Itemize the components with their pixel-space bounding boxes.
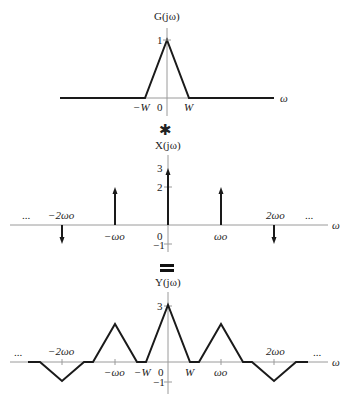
convolution-diagram: G(jω) 1 ω −W 0 W ✱ X(jω) 3 2 0 −1 −2ωo −… (0, 0, 352, 401)
x-title: X(jω) (155, 139, 181, 152)
g-title: G(jω) (154, 10, 180, 23)
x-ylabel-2: 2 (157, 181, 163, 193)
y-ellipsis-left: ... (14, 346, 23, 358)
g-ylabel-1: 1 (157, 34, 163, 46)
panel-x: X(jω) 3 2 0 −1 −2ωo −ωo ωo 2ωo ... ... ω (10, 139, 340, 252)
y-ylabel-minus-1: −1 (153, 376, 165, 388)
g-xlabel-zero: 0 (157, 101, 163, 113)
panel-y: Y(jω) 3 0 −1 −2ωo −ωo −W W ωo 2ωo ... ..… (10, 276, 340, 394)
x-xlabel-minus-wo: −ωo (104, 230, 125, 242)
x-impulse-arrowhead-4 (272, 237, 277, 244)
x-ylabel-minus-1: −1 (153, 239, 165, 251)
x-ylabel-3: 3 (157, 162, 163, 174)
y-ellipsis-right: ... (313, 346, 322, 358)
x-ellipsis-right: ... (305, 209, 314, 221)
x-ellipsis-left: ... (22, 209, 31, 221)
y-xlabel-minus-wo: −ωo (104, 366, 125, 378)
g-xlabel-minus-w: −W (133, 101, 150, 113)
y-xlabel-wo: ωo (214, 366, 228, 378)
y-xlabel-minus-2wo: −2ωo (48, 345, 75, 357)
x-impulse-arrowhead-2 (166, 168, 171, 175)
y-title: Y(jω) (155, 276, 181, 289)
x-impulse-arrowhead-3 (219, 187, 224, 194)
x-xlabel-wo: ωo (214, 230, 228, 242)
convolve-operator: ✱ (159, 121, 172, 139)
equals-operator (160, 264, 174, 272)
y-ylabel-3: 3 (157, 300, 163, 312)
x-xlabel-2wo: 2ωo (266, 209, 285, 221)
y-xlabel-2wo: 2ωo (266, 345, 285, 357)
y-xlabel-omega: ω (332, 356, 340, 368)
panel-g: G(jω) 1 ω −W 0 W (60, 10, 288, 116)
x-impulse-arrowhead-0 (60, 237, 65, 244)
y-xlabel-w: W (185, 366, 195, 378)
x-impulse-arrowhead-1 (113, 187, 118, 194)
x-xlabel-minus-2wo: −2ωo (48, 209, 75, 221)
g-xlabel-w: W (184, 101, 194, 113)
y-xlabel-minus-w: −W (134, 366, 151, 378)
g-xlabel-omega: ω (280, 92, 288, 104)
x-xlabel-omega: ω (332, 219, 340, 231)
